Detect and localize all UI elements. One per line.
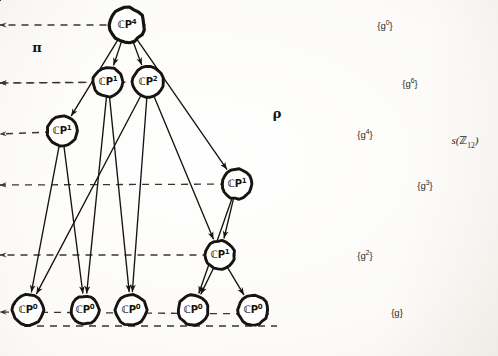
node-circle: [222, 169, 252, 199]
node-circle: [109, 7, 144, 43]
node-circle: [132, 66, 163, 97]
node-circle: [12, 294, 44, 325]
left-edge-cp2-to-cp1d: [154, 96, 213, 239]
node-circle: [205, 240, 235, 269]
node-circles: [12, 7, 268, 325]
diagram-svg: [0, 0, 498, 356]
left-edge-cp1d-to-cp0e: [227, 267, 243, 294]
node-circle: [178, 295, 207, 325]
node-circle: [115, 295, 147, 325]
left-edge-cp2-to-cp0c: [132, 97, 146, 291]
node-circle: [47, 116, 77, 146]
left-edge-cp4-to-cp1c: [137, 39, 227, 169]
node-circle: [93, 68, 123, 97]
node-circle: [71, 296, 99, 324]
left-edge-cp1b-to-cp0b: [64, 146, 83, 293]
figure-canvas: π ρ s(ℤ12) ℂP4ℂP1ℂP2ℂP1ℂP1ℂP1ℂP0ℂP0ℂP0ℂP…: [0, 0, 498, 356]
node-circle: [238, 295, 268, 325]
left-edge-cp1b-to-cp0a: [31, 146, 59, 292]
left-edge-cp1a-to-cp0c: [110, 97, 130, 292]
left-edge-cp1a-to-cp0b: [87, 97, 107, 293]
dashed-map-cp1c-to-g3: [0, 184, 253, 185]
